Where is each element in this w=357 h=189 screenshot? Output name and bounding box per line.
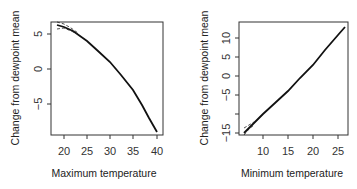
right-xtick-label: 25: [332, 145, 344, 157]
right-y-axis-label: Change from dewpoint mean: [198, 10, 210, 145]
right-x-axis-label: Minimum temperature: [241, 167, 343, 179]
left-xtick-label: 25: [81, 145, 93, 157]
left-xtick-label: 35: [127, 145, 139, 157]
left-y-ticks: [47, 34, 51, 104]
figure: 20 25 30 35 40 5 0 −5 Maximum temperatur…: [0, 0, 357, 189]
right-ytick-label: 10: [220, 32, 232, 44]
right-ytick-label: −5: [220, 89, 232, 102]
left-x-axis-label: Maximum temperature: [51, 167, 156, 179]
left-xtick-label: 40: [151, 145, 163, 157]
right-y-ticks: [235, 38, 239, 133]
right-ytick-label: 0: [220, 73, 232, 79]
right-lower-band: [244, 125, 254, 135]
right-x-ticks: [263, 135, 338, 139]
left-plot-frame: [51, 22, 163, 135]
right-xtick-label: 15: [282, 145, 294, 157]
left-panel: 20 25 30 35 40 5 0 −5 Maximum temperatur…: [9, 10, 163, 179]
left-fit-line: [57, 25, 157, 132]
right-xtick-label: 10: [257, 145, 269, 157]
left-x-ticks: [64, 135, 157, 139]
right-panel: 10 15 20 25 10 5 0 −5 −15 Minimum temper…: [198, 10, 348, 179]
right-plot-frame: [239, 22, 348, 135]
right-ytick-label: −15: [220, 124, 232, 143]
left-ytick-label: −5: [32, 98, 44, 111]
left-xtick-label: 30: [104, 145, 116, 157]
left-ytick-label: 5: [32, 31, 44, 37]
right-xtick-label: 20: [307, 145, 319, 157]
right-ytick-label: 5: [220, 54, 232, 60]
left-ytick-label: 0: [32, 66, 44, 72]
left-xtick-label: 20: [58, 145, 70, 157]
right-fit-line: [244, 27, 345, 133]
left-y-axis-label: Change from dewpoint mean: [9, 10, 21, 145]
